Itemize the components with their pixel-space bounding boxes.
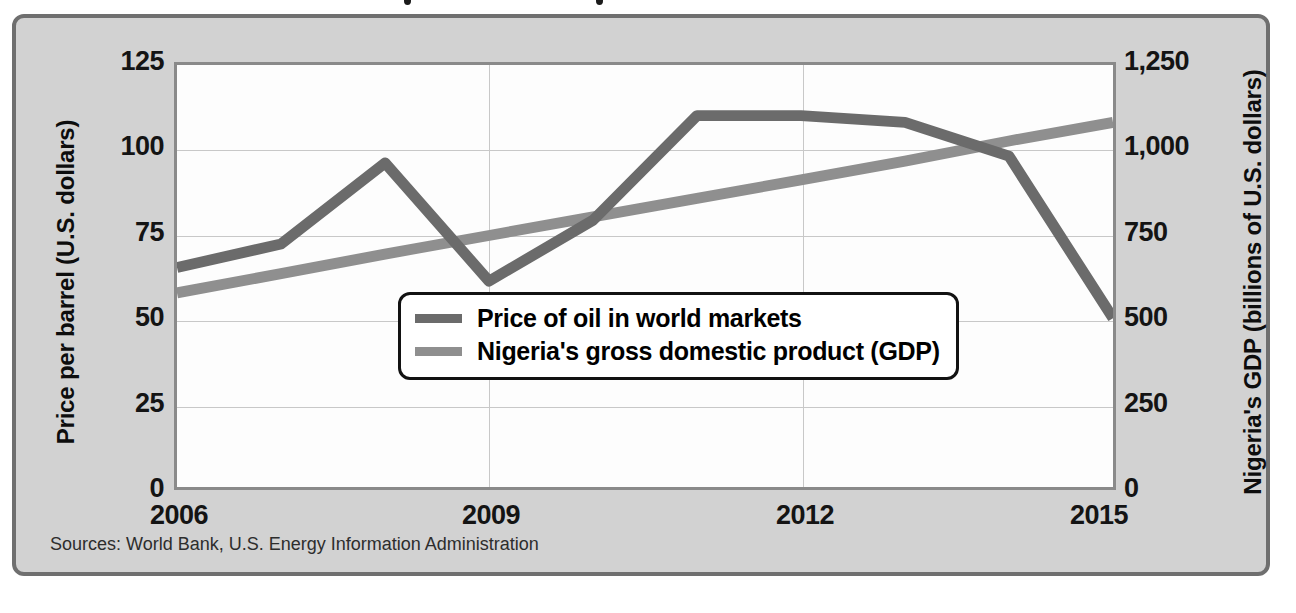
left-tick-25: 25 bbox=[135, 388, 164, 419]
x-tick-2015: 2015 bbox=[1070, 500, 1128, 531]
right-axis-ticks: 1,250 1,000 750 500 250 0 bbox=[1124, 62, 1234, 490]
legend-swatch-gdp bbox=[415, 347, 462, 356]
series-canvas bbox=[177, 65, 1113, 487]
x-tick-2009: 2009 bbox=[462, 500, 520, 531]
x-tick-2012: 2012 bbox=[776, 500, 834, 531]
cropped-title-fragment bbox=[404, 0, 411, 5]
right-tick-250: 250 bbox=[1124, 388, 1168, 419]
left-axis-title: Price per barrel (U.S. dollars) bbox=[52, 82, 80, 482]
cropped-title-fragment bbox=[596, 0, 603, 5]
left-tick-100: 100 bbox=[120, 131, 164, 162]
series-line-oil bbox=[177, 116, 1113, 319]
right-tick-1250: 1,250 bbox=[1124, 46, 1189, 77]
right-tick-500: 500 bbox=[1124, 302, 1168, 333]
x-tick-2006: 2006 bbox=[150, 500, 208, 531]
legend-item-oil: Price of oil in world markets bbox=[415, 302, 940, 335]
left-tick-125: 125 bbox=[120, 46, 164, 77]
left-tick-75: 75 bbox=[135, 217, 164, 248]
chart-figure: Price per barrel (U.S. dollars) Nigeria'… bbox=[0, 0, 1296, 613]
legend-label-gdp: Nigeria's gross domestic product (GDP) bbox=[477, 337, 940, 366]
right-tick-750: 750 bbox=[1124, 217, 1168, 248]
source-note: Sources: World Bank, U.S. Energy Informa… bbox=[50, 534, 539, 555]
chart-panel: Price per barrel (U.S. dollars) Nigeria'… bbox=[12, 14, 1270, 576]
right-axis-title: Nigeria's GDP (billions of U.S. dollars) bbox=[1239, 67, 1267, 497]
right-tick-1000: 1,000 bbox=[1124, 131, 1189, 162]
plot-area bbox=[174, 62, 1116, 490]
left-axis-ticks: 125 100 75 50 25 0 bbox=[92, 62, 164, 490]
legend-item-gdp: Nigeria's gross domestic product (GDP) bbox=[415, 335, 940, 368]
chart-legend: Price of oil in world markets Nigeria's … bbox=[398, 292, 959, 380]
legend-label-oil: Price of oil in world markets bbox=[477, 304, 802, 333]
left-tick-50: 50 bbox=[135, 302, 164, 333]
legend-swatch-oil bbox=[415, 314, 462, 323]
